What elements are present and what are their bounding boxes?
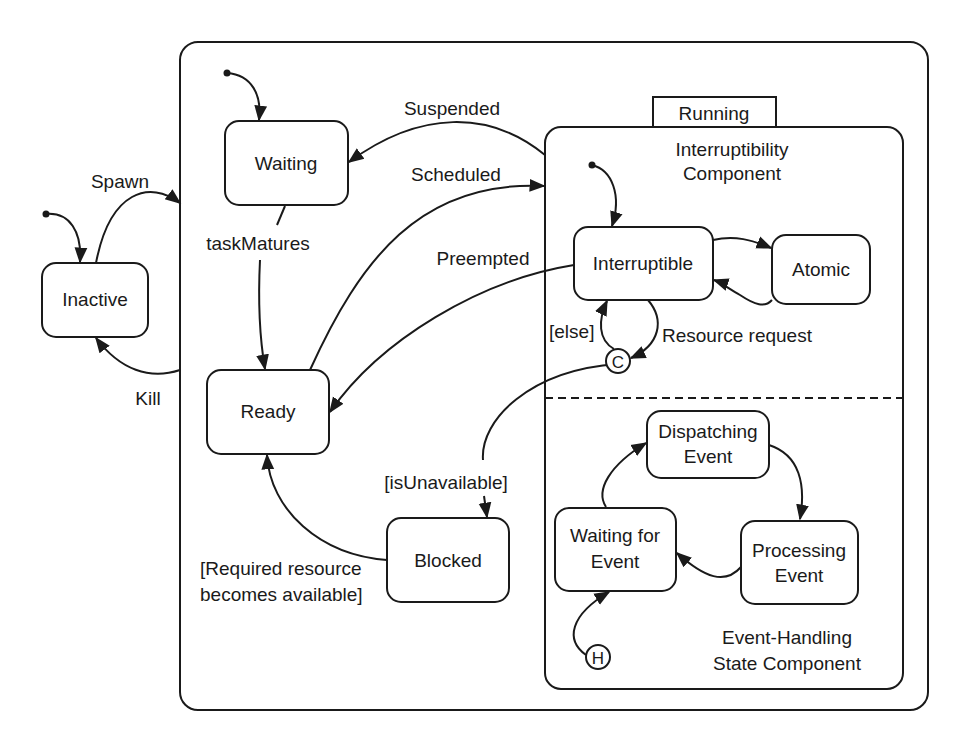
running-label: Running xyxy=(679,103,750,124)
transition-resource-available-label-2: becomes available] xyxy=(200,584,363,605)
interruptibility-region-title-1: Interruptibility xyxy=(676,139,789,160)
state-ready-label: Ready xyxy=(241,401,296,422)
state-waiting-for-event xyxy=(555,508,676,591)
transition-kill xyxy=(96,338,180,374)
state-dispatching-event-label-1: Dispatching xyxy=(658,421,757,442)
state-interruptible-label: Interruptible xyxy=(593,253,693,274)
state-blocked-label: Blocked xyxy=(414,550,482,571)
state-diagram: Running Interruptibility Component Event… xyxy=(0,0,956,742)
state-processing-event-label-1: Processing xyxy=(752,540,846,561)
transition-else-label: [else] xyxy=(549,321,594,342)
running-composite-state xyxy=(545,127,903,689)
interruptibility-region-title-2: Component xyxy=(683,163,782,184)
transition-resource-available-label-1: [Required resource xyxy=(200,558,362,579)
choice-pseudostate-label: C xyxy=(612,353,624,372)
transition-task-matures-label: taskMatures xyxy=(206,233,309,254)
transition-suspended-label: Suspended xyxy=(404,98,500,119)
initial-transition-inactive xyxy=(46,214,80,262)
transition-is-unavailable-label: [isUnavailable] xyxy=(384,472,508,493)
transition-preempted-label: Preempted xyxy=(437,248,530,269)
event-handling-region-title-1: Event-Handling xyxy=(722,627,852,648)
state-waiting-for-event-label-2: Event xyxy=(591,551,640,572)
transition-spawn-label: Spawn xyxy=(91,171,149,192)
state-inactive-label: Inactive xyxy=(62,289,127,310)
transition-resource-request-label: Resource request xyxy=(662,325,813,346)
transition-kill-label: Kill xyxy=(135,388,160,409)
transition-scheduled-label: Scheduled xyxy=(411,164,501,185)
state-waiting-label: Waiting xyxy=(255,153,318,174)
state-processing-event-label-2: Event xyxy=(775,565,824,586)
history-pseudostate-label: H xyxy=(592,649,604,668)
state-atomic-label: Atomic xyxy=(792,259,850,280)
state-dispatching-event-label-2: Event xyxy=(684,446,733,467)
state-processing-event xyxy=(741,521,858,604)
transition-spawn xyxy=(96,192,180,263)
event-handling-region-title-2: State Component xyxy=(713,653,862,674)
state-waiting-for-event-label-1: Waiting for xyxy=(570,525,661,546)
